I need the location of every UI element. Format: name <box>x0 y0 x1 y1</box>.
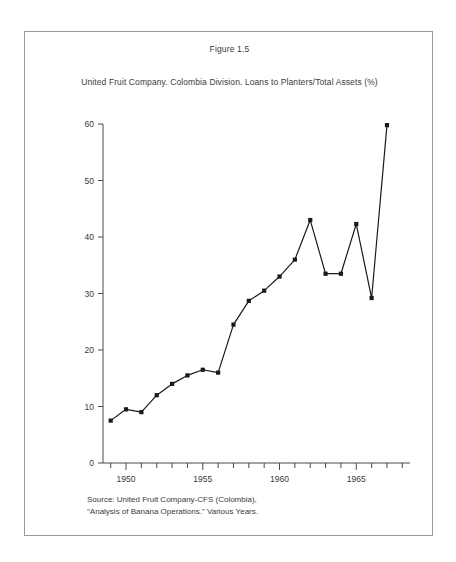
x-tick-label: 1955 <box>193 474 212 484</box>
data-point-marker <box>339 272 343 276</box>
data-point-marker <box>139 410 143 414</box>
data-point-marker <box>370 296 374 300</box>
data-point-marker <box>124 407 128 411</box>
data-point-marker <box>216 371 220 375</box>
data-point-marker <box>262 289 266 293</box>
y-tick-label: 20 <box>85 345 95 355</box>
x-axis-ticks: 1950195519601965 <box>111 463 403 484</box>
source-note: Source: United Fruit Company-CFS (Colomb… <box>87 494 417 517</box>
line-chart-plot: 0102030405060 1950195519601965 <box>25 32 434 537</box>
chart-axes <box>103 124 410 463</box>
data-point-marker <box>323 272 327 276</box>
data-series-line <box>111 125 387 421</box>
x-tick-label: 1960 <box>270 474 289 484</box>
y-axis-ticks: 0102030405060 <box>85 119 103 468</box>
data-point-marker <box>293 258 297 262</box>
y-tick-label: 40 <box>85 232 95 242</box>
x-tick-label: 1950 <box>117 474 136 484</box>
y-tick-label: 10 <box>85 402 95 412</box>
data-point-marker <box>155 393 159 397</box>
figure-page: Figure 1.5 United Fruit Company. Colombi… <box>0 0 456 562</box>
x-tick-label: 1965 <box>347 474 366 484</box>
data-point-marker <box>354 222 358 226</box>
y-tick-label: 30 <box>85 289 95 299</box>
y-tick-label: 50 <box>85 176 95 186</box>
data-point-marker <box>231 322 235 326</box>
series-polyline <box>111 125 387 421</box>
data-point-marker <box>247 299 251 303</box>
data-point-marker <box>201 368 205 372</box>
data-point-marker <box>308 218 312 222</box>
data-point-marker <box>385 123 389 127</box>
data-point-marker <box>170 382 174 386</box>
data-point-marker <box>277 274 281 278</box>
data-point-marker <box>185 373 189 377</box>
y-tick-label: 60 <box>85 119 95 129</box>
data-point-markers <box>109 123 390 423</box>
y-tick-label: 0 <box>89 458 94 468</box>
figure-frame: Figure 1.5 United Fruit Company. Colombi… <box>24 31 433 536</box>
data-point-marker <box>109 419 113 423</box>
